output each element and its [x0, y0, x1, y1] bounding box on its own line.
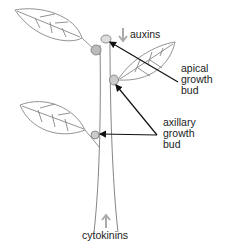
leaf-right: [118, 42, 175, 80]
axillary-bud-right: [110, 75, 119, 85]
axillary-pointer-upper: [116, 85, 157, 135]
cytokinins-label: cytokinins: [82, 230, 128, 241]
apical-bud: [101, 35, 111, 43]
axillary-pointer-lower: [100, 134, 157, 135]
leaf-top-left: [15, 9, 100, 55]
buds: [91, 35, 119, 139]
auxin-arrow-icon: [119, 28, 127, 41]
bud-left-upper: [91, 45, 101, 55]
apical-bud-label: apical growth bud: [181, 63, 213, 96]
cytokinin-arrow-icon: [102, 215, 110, 228]
auxins-label: auxins: [130, 29, 160, 40]
axillary-bud-lower: [91, 131, 99, 139]
axillary-bud-label: axillary growth bud: [163, 117, 196, 150]
leaf-lower-left: [20, 102, 100, 148]
